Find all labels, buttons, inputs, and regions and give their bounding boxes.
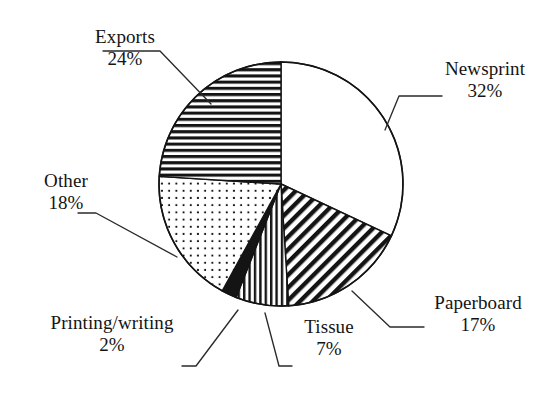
slice-label-exports-percent: 24% — [60, 48, 190, 70]
slice-label-paperboard-percent: 17% — [404, 314, 552, 336]
slice-label-newsprint-name: Newsprint — [418, 58, 552, 80]
slice-label-printing-writing: Printing/writing 2% — [14, 312, 210, 357]
slice-label-other-name: Other — [18, 170, 114, 192]
slice-label-other-percent: 18% — [18, 192, 114, 214]
slice-label-exports-name: Exports — [60, 26, 190, 48]
slice-label-tissue-name: Tissue — [286, 316, 372, 338]
slice-label-printing-writing-name: Printing/writing — [14, 312, 210, 334]
leader-line-other — [78, 213, 177, 257]
slice-label-newsprint: Newsprint 32% — [418, 58, 552, 103]
pie-slices-group: Newsprint 32%Paperboard 17%Tissue 7%Prin… — [159, 62, 403, 306]
slice-label-tissue: Tissue 7% — [286, 316, 372, 361]
pie-chart-figure: Newsprint 32%Paperboard 17%Tissue 7%Prin… — [0, 0, 552, 401]
slice-label-exports: Exports 24% — [60, 26, 190, 71]
slice-label-other: Other 18% — [18, 170, 114, 215]
slice-label-paperboard-name: Paperboard — [404, 292, 552, 314]
slice-label-tissue-percent: 7% — [286, 338, 372, 360]
pie-slice-exports[interactable]: Exports 24% — [159, 62, 281, 184]
slice-label-printing-writing-percent: 2% — [14, 334, 210, 356]
slice-label-paperboard: Paperboard 17% — [404, 292, 552, 337]
slice-label-newsprint-percent: 32% — [418, 80, 552, 102]
